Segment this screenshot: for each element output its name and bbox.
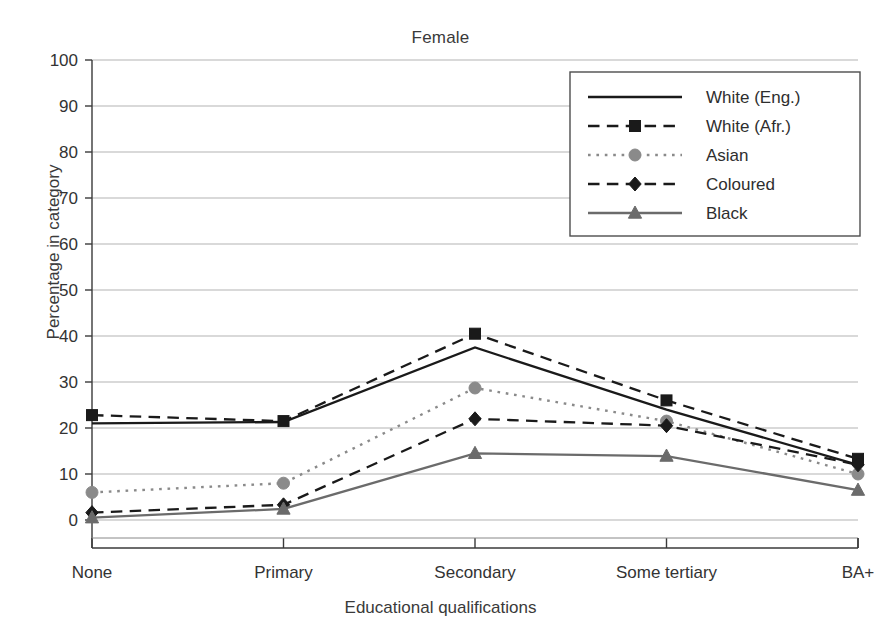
x-tick-label: Primary	[254, 563, 313, 582]
y-tick-label: 0	[69, 511, 78, 530]
y-tick-label: 10	[59, 465, 78, 484]
y-axis-ticks: 0102030405060708090100	[50, 51, 92, 530]
data-point-marker	[278, 477, 290, 489]
legend-item-label: Asian	[706, 146, 749, 165]
series-asian	[86, 382, 864, 498]
data-point-marker	[469, 412, 481, 426]
data-point-marker	[87, 410, 98, 421]
y-tick-label: 20	[59, 419, 78, 438]
legend-item-label: White (Afr.)	[706, 117, 791, 136]
data-point-marker	[661, 395, 672, 406]
y-tick-label: 40	[59, 327, 78, 346]
data-series	[85, 328, 864, 523]
series-line	[92, 334, 858, 459]
legend-item-label: Coloured	[706, 175, 775, 194]
y-tick-label: 50	[59, 281, 78, 300]
legend-item-label: Black	[706, 204, 748, 223]
x-axis-ticks: NonePrimarySecondarySome tertiaryBA+	[72, 538, 875, 582]
data-point-marker	[86, 486, 98, 498]
y-tick-label: 70	[59, 189, 78, 208]
data-point-marker	[629, 149, 641, 161]
data-point-marker	[469, 382, 481, 394]
data-point-marker	[278, 416, 289, 427]
line-chart: 0102030405060708090100 NonePrimarySecond…	[0, 0, 881, 638]
x-tick-label: Some tertiary	[616, 563, 718, 582]
y-tick-label: 100	[50, 51, 78, 70]
y-tick-label: 30	[59, 373, 78, 392]
y-tick-label: 90	[59, 97, 78, 116]
legend-item-label: White (Eng.)	[706, 88, 800, 107]
data-point-marker	[630, 121, 641, 132]
x-tick-label: BA+	[842, 563, 875, 582]
y-tick-label: 60	[59, 235, 78, 254]
x-tick-label: Secondary	[434, 563, 516, 582]
chart-page: Female Percentage in category Educationa…	[0, 0, 881, 638]
x-tick-label: None	[72, 563, 113, 582]
chart-legend[interactable]: White (Eng.)White (Afr.)AsianColouredBla…	[570, 72, 860, 236]
data-point-marker	[470, 328, 481, 339]
series-black	[85, 446, 864, 523]
y-tick-label: 80	[59, 143, 78, 162]
